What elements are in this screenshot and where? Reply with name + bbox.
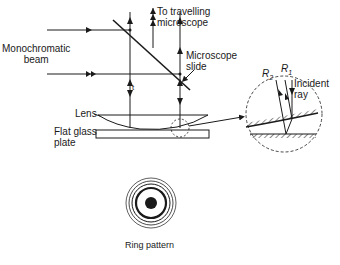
beam-label: Monochromatic beam	[2, 43, 70, 65]
magnify-pointer	[189, 117, 242, 126]
newtons-rings-diagram	[0, 0, 340, 265]
to-microscope-line1: To travelling	[157, 6, 210, 17]
slide-label: Microscope slide	[186, 50, 237, 72]
incident-label-line2: ray	[294, 89, 329, 100]
r2-label: R2	[262, 68, 273, 83]
lens	[98, 115, 208, 129]
incoming-beam-upper	[47, 27, 130, 33]
to-microscope-line2: microscope	[157, 17, 210, 28]
slide-label-line2: slide	[186, 61, 237, 72]
vertical-ray-right	[177, 12, 183, 128]
incident-label-line1: Incident	[294, 78, 329, 89]
plate-label-line2: plate	[54, 137, 97, 148]
incoming-beam-lower	[47, 71, 180, 77]
plate-label-line1: Flat glass	[54, 126, 97, 137]
r1-label: R1	[281, 63, 292, 78]
lens-label: Lens	[75, 108, 97, 119]
thickness-label: t	[132, 82, 134, 93]
beam-label-line1: Monochromatic	[2, 43, 70, 54]
vertical-ray-left	[127, 12, 133, 128]
to-microscope-label: To travelling microscope	[157, 6, 210, 28]
microscope-slide	[113, 20, 190, 90]
beam-label-line2: beam	[2, 54, 70, 65]
slide-label-line1: Microscope	[186, 50, 237, 61]
ring-pattern	[126, 178, 176, 228]
plate-label: Flat glass plate	[54, 126, 97, 148]
incident-ray-label: Incident ray	[294, 78, 329, 100]
ring-pattern-caption: Ring pattern	[125, 240, 174, 251]
to-microscope-arrow	[150, 8, 156, 48]
flat-glass-plate	[96, 130, 209, 138]
